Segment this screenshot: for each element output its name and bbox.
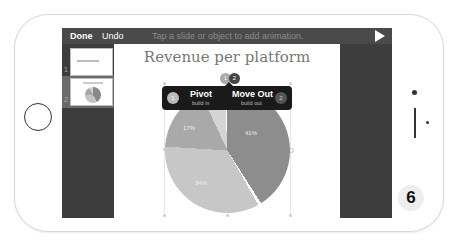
toolbar-hint: Tap a slide or object to add animation.	[152, 31, 304, 41]
camera-icon	[412, 90, 417, 95]
slide-thumbnail-1[interactable]	[70, 48, 113, 76]
build-in-number: 1	[167, 92, 179, 104]
step-number-badge: 6	[398, 185, 424, 211]
resize-handle[interactable]	[163, 214, 166, 217]
pie-label: 41%	[245, 130, 257, 136]
resize-handle[interactable]	[289, 82, 292, 85]
build-out-title: Move Out	[232, 89, 273, 99]
slide-title[interactable]: Revenue per platform	[114, 48, 340, 66]
pie-label: 17%	[183, 125, 195, 131]
toolbar: Done Undo Tap a slide or object to add a…	[62, 28, 392, 44]
home-button[interactable]	[24, 103, 52, 131]
animation-popover: 1 Pivot build in Move Out build out 2	[162, 86, 292, 110]
sensor-icon	[426, 121, 429, 124]
undo-button[interactable]: Undo	[102, 31, 124, 41]
resize-handle[interactable]	[289, 214, 292, 217]
popover-arrow	[225, 82, 233, 86]
build-in-subtitle: build in	[192, 100, 209, 106]
pie-label: 34%	[195, 180, 207, 186]
build-in-title: Pivot	[190, 89, 212, 99]
build-out-number: 2	[275, 92, 287, 104]
slide-thumbnail-2[interactable]	[70, 78, 113, 106]
screen: Done Undo Tap a slide or object to add a…	[62, 28, 392, 218]
done-button[interactable]: Done	[70, 31, 93, 41]
slide-number: 1	[64, 66, 68, 73]
thumbnail-title-line	[83, 82, 103, 84]
slide-number: 2	[64, 96, 68, 103]
build-out-subtitle: build out	[241, 100, 262, 106]
right-panel	[340, 44, 392, 218]
play-icon[interactable]	[375, 30, 385, 42]
resize-handle[interactable]	[163, 82, 166, 85]
thumbnail-pie-chart	[85, 87, 101, 103]
resize-handle[interactable]	[226, 214, 229, 217]
thumbnail-title-line	[77, 60, 99, 62]
slide-canvas[interactable]: Revenue per platform 41% 34% 17% 1 2 1 P…	[114, 44, 340, 218]
slide-navigator: 1 2 +	[62, 44, 114, 218]
speaker-grille	[414, 108, 416, 138]
